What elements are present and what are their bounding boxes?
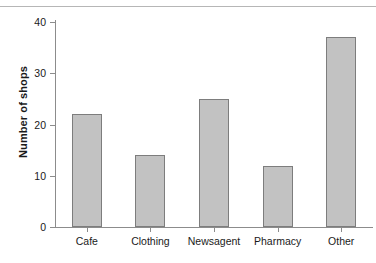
x-axis-tick <box>341 228 342 232</box>
y-axis-tick <box>50 227 55 228</box>
y-axis-line <box>55 20 56 228</box>
x-axis-tick <box>87 228 88 232</box>
y-axis-title: Number of shops <box>17 37 29 187</box>
bar-newsagent <box>199 99 229 227</box>
bar-pharmacy <box>263 166 293 228</box>
x-axis-tick <box>278 228 279 232</box>
y-axis-tick <box>50 22 55 23</box>
bar-clothing <box>135 155 165 227</box>
y-axis-tick-label: 10 <box>6 171 46 182</box>
y-axis-tick <box>50 125 55 126</box>
x-axis-tick <box>150 228 151 232</box>
y-axis-tick <box>50 176 55 177</box>
y-axis-tick <box>50 73 55 74</box>
bar-other <box>326 37 356 227</box>
bar-chart-figure: Number of shops 010203040 CafeClothingNe… <box>0 0 376 263</box>
y-axis-tick-label: 0 <box>6 222 46 233</box>
y-axis-tick-label: 20 <box>6 120 46 131</box>
x-axis-tick <box>214 228 215 232</box>
x-axis-tick-label: Other <box>296 236 376 248</box>
y-axis-tick-label: 30 <box>6 68 46 79</box>
y-axis-tick-label: 40 <box>6 17 46 28</box>
bar-cafe <box>72 114 102 227</box>
